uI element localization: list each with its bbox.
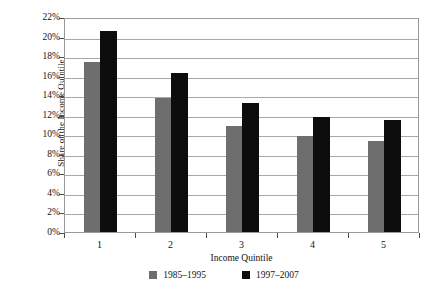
y-axis-tick-label: 20%	[26, 33, 60, 43]
legend-label: 1985–1995	[163, 270, 206, 280]
bar	[297, 136, 313, 232]
x-axis-tick-mark	[348, 233, 349, 238]
x-axis-tick-mark	[419, 233, 420, 238]
bar-group	[84, 19, 117, 232]
y-axis-tick-labels: 0%2%4%6%8%10%12%14%16%18%20%22%	[26, 18, 60, 233]
legend-label: 1997–2007	[256, 270, 299, 280]
y-axis-tick-label: 6%	[26, 170, 60, 180]
x-axis-tick-label: 2	[151, 239, 191, 250]
bar	[226, 126, 242, 232]
bar-group	[368, 19, 401, 232]
y-axis-tick-label: 4%	[26, 189, 60, 199]
x-axis-tick-label: 5	[364, 239, 404, 250]
bar-group	[226, 19, 259, 232]
x-axis-tick-mark	[277, 233, 278, 238]
bar	[100, 31, 116, 232]
bar	[313, 117, 329, 232]
bar	[171, 73, 187, 232]
x-axis-title: Income Quintile	[64, 253, 419, 263]
plot-area	[64, 18, 419, 233]
x-axis-tick-label: 3	[222, 239, 262, 250]
legend-swatch-icon	[149, 271, 157, 279]
y-axis-tick-label: 10%	[26, 131, 60, 141]
y-axis-tick-label: 0%	[26, 228, 60, 238]
x-axis-tick-mark	[206, 233, 207, 238]
bars-layer	[65, 19, 418, 232]
x-axis-tick-label: 1	[80, 239, 120, 250]
x-axis-tick-label: 4	[293, 239, 333, 250]
bar	[368, 141, 384, 232]
y-axis-tick-label: 8%	[26, 150, 60, 160]
bar-group	[155, 19, 188, 232]
x-axis-tick-mark	[64, 233, 65, 238]
bar	[84, 62, 100, 232]
x-axis-tick-mark	[135, 233, 136, 238]
chart-legend: 1985–19951997–2007	[0, 270, 448, 280]
legend-item: 1997–2007	[242, 270, 299, 280]
bar-chart: Share of the Income Quintile 0%2%4%6%8%1…	[0, 0, 448, 295]
bar	[384, 120, 400, 232]
y-axis-tick-label: 12%	[26, 111, 60, 121]
y-axis-tick-label: 2%	[26, 209, 60, 219]
y-axis-tick-label: 14%	[26, 91, 60, 101]
y-axis-tick-label: 18%	[26, 52, 60, 62]
bar-group	[297, 19, 330, 232]
y-axis-tick-label: 22%	[26, 13, 60, 23]
legend-swatch-icon	[242, 271, 250, 279]
y-axis-tick-label: 16%	[26, 72, 60, 82]
bar	[155, 98, 171, 232]
legend-item: 1985–1995	[149, 270, 206, 280]
bar	[242, 103, 258, 232]
